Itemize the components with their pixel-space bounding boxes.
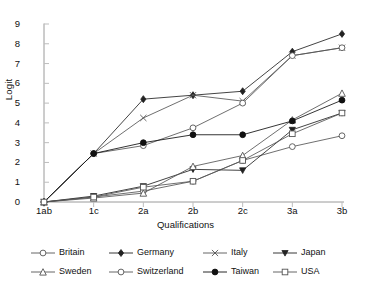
legend-label: Sweden (59, 267, 92, 276)
legend-item-usa[interactable]: USA (272, 266, 338, 278)
legend-item-switzerland[interactable]: Switzerland (108, 266, 202, 278)
legend-item-italy[interactable]: Italy (202, 247, 272, 259)
legend-label: Switzerland (137, 267, 184, 276)
legend-label: Taiwan (231, 267, 259, 276)
legend-label: Japan (301, 248, 326, 257)
legend-row: BritainGermanyItalyJapan (30, 243, 341, 262)
y-axis-tick-label: 2 (4, 157, 20, 167)
legend-label: Italy (231, 248, 248, 257)
legend-swatch-germany (108, 247, 134, 259)
legend-item-britain[interactable]: Britain (30, 247, 108, 259)
y-axis-tick-label: 0 (4, 197, 20, 207)
x-axis-title: Qualifications (0, 219, 371, 230)
legend-label: USA (301, 267, 320, 276)
y-axis-tick-label: 9 (4, 19, 20, 29)
chart-legend: BritainGermanyItalyJapanSwedenSwitzerlan… (30, 243, 341, 281)
plot-area (44, 24, 342, 202)
x-axis-tick-label: 2c (223, 205, 263, 216)
y-axis-tick-label: 8 (4, 39, 20, 49)
y-axis-tick-label: 5 (4, 98, 20, 108)
legend-item-japan[interactable]: Japan (272, 247, 338, 259)
legend-swatch-britain (30, 247, 56, 259)
y-axis-tick-label: 4 (4, 118, 20, 128)
x-axis-tick-label: 3a (272, 205, 312, 216)
x-axis-tick-label: 1ab (24, 205, 64, 216)
marker-open-square (282, 269, 288, 275)
x-axis-tick-label: 2a (123, 205, 163, 216)
marker-filled-circle (212, 269, 218, 275)
y-axis-tick-label: 1 (4, 177, 20, 187)
y-axis-tick-label: 6 (4, 78, 20, 88)
legend-swatch-taiwan (202, 266, 228, 278)
legend-label: Germany (137, 248, 174, 257)
legend-item-germany[interactable]: Germany (108, 247, 202, 259)
legend-label: Britain (59, 248, 85, 257)
marker-open-circle (40, 250, 46, 256)
legend-item-sweden[interactable]: Sweden (30, 266, 108, 278)
x-axis-tick-label: 3b (322, 205, 362, 216)
marker-filled-diamond (118, 249, 123, 256)
legend-swatch-usa (272, 266, 298, 278)
chart-figure: Logit 0123456789 1ab1c2a2b2c3a3b Qualifi… (0, 0, 371, 289)
x-axis-tick-label: 1c (74, 205, 114, 216)
legend-swatch-switzerland (108, 266, 134, 278)
marker-open-circle (118, 269, 124, 275)
y-axis-tick-label: 7 (4, 59, 20, 69)
legend-swatch-japan (272, 247, 298, 259)
legend-row: SwedenSwitzerlandTaiwanUSA (30, 262, 341, 281)
x-axis-tick-label: 2b (173, 205, 213, 216)
legend-swatch-sweden (30, 266, 56, 278)
legend-swatch-italy (202, 247, 228, 259)
y-axis-title: Logit (3, 60, 14, 120)
y-axis-tick-label: 3 (4, 138, 20, 148)
legend-item-taiwan[interactable]: Taiwan (202, 266, 272, 278)
